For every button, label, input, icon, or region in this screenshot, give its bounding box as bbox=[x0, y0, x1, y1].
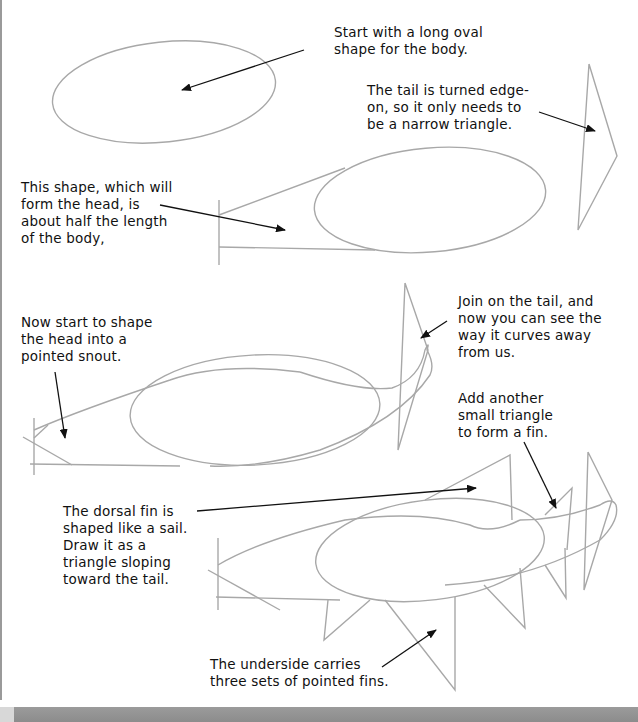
caption-tail-edge-on: The tail is turned edge- on, so it only … bbox=[367, 82, 529, 133]
stage4-underside-fin-1 bbox=[324, 600, 370, 640]
stage4-tail-triangle bbox=[584, 452, 612, 590]
page-footer-band-lead bbox=[0, 707, 14, 722]
stage4-underside-fin-2 bbox=[385, 597, 455, 690]
caption-dorsal-fin: The dorsal fin is shaped like a sail. Dr… bbox=[63, 503, 188, 588]
arrow-tail-edge-on bbox=[539, 112, 595, 131]
stage3-tail-triangle bbox=[398, 283, 428, 450]
stage4-body-oval bbox=[310, 486, 550, 613]
arrow-small-fin bbox=[524, 442, 556, 508]
stage4-dorsal-fin bbox=[425, 455, 512, 520]
stage1-body-oval bbox=[47, 31, 280, 154]
arrow-body-oval bbox=[182, 50, 304, 90]
stage3-body-oval bbox=[127, 349, 382, 472]
stage2-body-oval bbox=[310, 138, 550, 262]
caption-underside-fins: The underside carries three sets of poin… bbox=[210, 656, 389, 690]
caption-small-fin: Add another small triangle to form a fin… bbox=[458, 390, 553, 441]
caption-head-shape: This shape, which will form the head, is… bbox=[21, 179, 173, 247]
arrow-underside-fins bbox=[382, 630, 436, 667]
page-footer-band bbox=[14, 707, 638, 722]
caption-join-tail: Join on the tail, and now you can see th… bbox=[458, 293, 602, 361]
stage4-small-fin bbox=[545, 488, 572, 550]
arrow-join-tail bbox=[421, 321, 447, 338]
arrow-snout bbox=[55, 372, 65, 438]
caption-body-oval: Start with a long oval shape for the bod… bbox=[334, 24, 483, 58]
arrow-head-shape bbox=[160, 205, 285, 230]
stage2-tail-triangle bbox=[578, 64, 617, 230]
caption-snout: Now start to shape the head into a point… bbox=[21, 314, 153, 365]
